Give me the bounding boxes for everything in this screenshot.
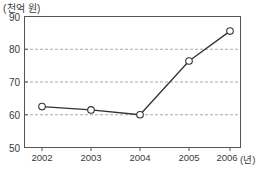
ytick-label-70: 70 bbox=[0, 77, 20, 88]
data-point-2003 bbox=[88, 107, 95, 114]
xtick-label-2005: 2005 bbox=[169, 152, 209, 163]
ytick-label-80: 80 bbox=[0, 44, 20, 55]
ytick-label-50: 50 bbox=[0, 142, 20, 153]
data-point-2004 bbox=[137, 111, 144, 118]
data-point-2005 bbox=[186, 58, 193, 65]
xtick-label-2004: 2004 bbox=[120, 152, 160, 163]
data-point-2006 bbox=[227, 28, 234, 35]
chart-screenshot: (천억 원) bbox=[0, 0, 257, 169]
x-axis-unit-label: (년) bbox=[240, 152, 255, 166]
xtick-label-2003: 2003 bbox=[71, 152, 111, 163]
data-point-2002 bbox=[39, 103, 46, 110]
plot-area: 90 80 70 60 50 2002 2003 2004 2005 2006 … bbox=[0, 0, 257, 169]
ytick-label-60: 60 bbox=[0, 109, 20, 120]
xtick-label-2002: 2002 bbox=[22, 152, 62, 163]
ytick-label-90: 90 bbox=[0, 11, 20, 22]
line-chart-svg bbox=[0, 0, 257, 169]
